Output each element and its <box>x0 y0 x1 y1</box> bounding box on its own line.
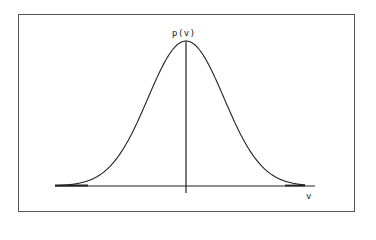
x-axis-label: v <box>306 191 312 201</box>
density-curve <box>55 41 305 186</box>
y-axis-label: p(v) <box>172 28 196 38</box>
